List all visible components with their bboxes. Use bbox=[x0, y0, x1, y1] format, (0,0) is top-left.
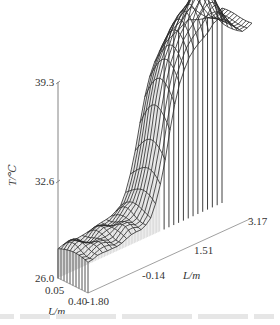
figure-caption-blurred bbox=[0, 314, 280, 322]
long-axis-tick-neg0-14: -0.14 bbox=[142, 270, 165, 281]
short-axis-tick-0-40: 0.40 bbox=[68, 296, 87, 307]
long-axis-tick-3-17: 3.17 bbox=[248, 216, 267, 227]
t-tick-label-32-6: 32.6 bbox=[35, 176, 54, 187]
t-tick-label-39-3: 39.3 bbox=[35, 77, 54, 88]
long-axis-tick-neg1-80: -1.80 bbox=[86, 296, 109, 307]
t-axis-label: T/℃ bbox=[6, 165, 19, 186]
short-axis-tick-0-05: 0.05 bbox=[45, 285, 64, 296]
long-axis-tick-1-51: 1.51 bbox=[194, 245, 213, 256]
t-tick-label-26-0: 26.0 bbox=[35, 273, 54, 284]
long-axis-label: L/m bbox=[183, 270, 200, 281]
